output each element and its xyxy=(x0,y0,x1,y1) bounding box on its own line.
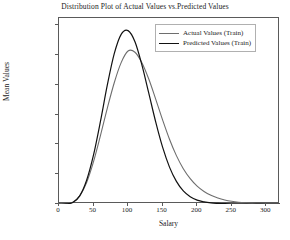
legend-label-predicted: Predicted Values (Train) xyxy=(183,39,251,47)
x-tick-label: 0 xyxy=(46,206,70,214)
x-tick-mark xyxy=(127,203,128,206)
x-tick-mark xyxy=(93,203,94,206)
chart-figure: Distribution Plot of Actual Values vs.Pr… xyxy=(0,0,290,240)
legend-label-actual: Actual Values (Train) xyxy=(183,29,243,37)
x-tick-label: 100 xyxy=(115,206,139,214)
x-tick-mark xyxy=(196,203,197,206)
x-tick-label: 50 xyxy=(81,206,105,214)
x-tick-mark xyxy=(265,203,266,206)
clipped-footer-text xyxy=(0,234,290,240)
x-tick-mark xyxy=(58,203,59,206)
x-tick-label: 150 xyxy=(150,206,174,214)
x-tick-label: 300 xyxy=(253,206,277,214)
chart-legend: Actual Values (Train) Predicted Values (… xyxy=(155,24,256,52)
legend-item-predicted: Predicted Values (Train) xyxy=(159,38,251,48)
x-tick-label: 250 xyxy=(219,206,243,214)
legend-item-actual: Actual Values (Train) xyxy=(159,28,251,38)
x-tick-mark xyxy=(162,203,163,206)
x-axis-label: Salary xyxy=(58,219,279,228)
x-tick-label: 200 xyxy=(184,206,208,214)
legend-swatch-actual xyxy=(159,33,179,34)
x-tick-mark xyxy=(231,203,232,206)
legend-swatch-predicted xyxy=(159,43,179,44)
